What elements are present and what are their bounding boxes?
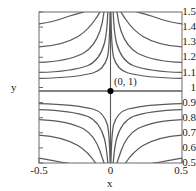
ytick-label: 1.1 [160,67,196,78]
ytick-label: 1.4 [160,21,196,32]
ytick-label: 1 [160,82,196,93]
xtick-label: -0.5 [23,165,55,176]
figure-container: 1.5 1.4 1.3 1.2 1.1 1 0.9 0.8 0.7 0.6 0.… [0,0,196,191]
x-axis-title: x [107,178,113,189]
ytick-label: 0.9 [160,97,196,108]
saddle-point-marker [107,88,113,94]
y-axis-title: y [11,82,17,93]
ytick-label: 1.3 [160,36,196,47]
ytick-label: 0.8 [160,112,196,123]
ytick-label: 0.6 [160,142,196,153]
ytick-label: 0.7 [160,127,196,138]
saddle-point-label: (0, 1) [114,76,137,87]
xtick-label: 0 [95,165,126,176]
xtick-label: 0.5 [166,165,196,176]
ytick-label: 1.5 [160,6,196,17]
ytick-label: 1.2 [160,51,196,62]
